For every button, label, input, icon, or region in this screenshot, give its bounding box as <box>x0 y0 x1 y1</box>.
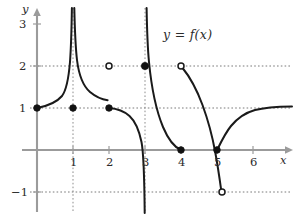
filled-point-5-0 <box>214 147 221 154</box>
horizontal-gridlines <box>30 66 292 192</box>
xtick-label-3: 3 <box>142 157 149 169</box>
curve-branch-4-to-5 <box>182 68 221 191</box>
ytick-label-minus-1: −1 <box>11 187 28 199</box>
curve-branch-1-to-2 <box>74 8 107 100</box>
y-axis-label: y <box>22 4 29 16</box>
ytick-label-2: 2 <box>19 61 26 73</box>
filled-point-2-1 <box>106 105 113 112</box>
filled-point-0-1 <box>34 105 41 112</box>
y-axis-arrowhead <box>33 8 41 16</box>
x-axis-label: x <box>280 155 287 167</box>
xtick-label-1: 1 <box>70 157 77 169</box>
open-point-markers <box>106 63 225 195</box>
xtick-label-6: 6 <box>250 157 257 169</box>
curve-branch-2-to-3 <box>109 108 145 213</box>
ytick-label-1: 1 <box>19 103 26 115</box>
xtick-label-2: 2 <box>106 157 113 169</box>
open-point-4-2 <box>178 63 184 69</box>
curve-equation-label: y = f(x) <box>163 27 212 42</box>
filled-point-4-0 <box>178 147 185 154</box>
filled-point-1-1 <box>70 105 77 112</box>
curve-branch-5-to-7 <box>218 106 292 149</box>
graph-plot-area <box>0 0 301 221</box>
xtick-label-5: 5 <box>214 157 221 169</box>
open-point-5-minus-1 <box>219 189 225 195</box>
filled-point-3-2 <box>141 62 148 69</box>
function-graph-figure: 3 2 1 −1 1 2 3 4 5 6 x y y = f(x) <box>0 0 301 221</box>
xtick-label-4: 4 <box>178 157 185 169</box>
ytick-label-3: 3 <box>19 19 26 31</box>
open-point-2-2 <box>106 63 112 69</box>
curve-branch-0-to-1 <box>37 8 72 108</box>
